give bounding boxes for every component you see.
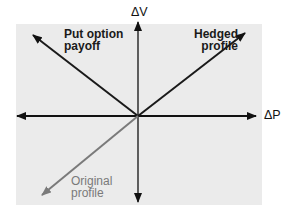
put-option-label-line2: payoff (64, 40, 123, 52)
diagram-canvas (0, 0, 290, 214)
x-axis-label: ΔP (264, 108, 281, 122)
y-axis-label: ΔV (131, 5, 148, 19)
original-label-line2: profile (71, 187, 112, 199)
y-axis-label-text: ΔV (131, 5, 148, 19)
original-profile-label: Original profile (71, 175, 112, 199)
put-option-payoff-label: Put option payoff (64, 28, 123, 52)
x-axis-label-text: ΔP (264, 108, 281, 122)
hedged-profile-label: Hedged profile (188, 28, 238, 52)
hedged-label-line2: profile (188, 40, 238, 52)
